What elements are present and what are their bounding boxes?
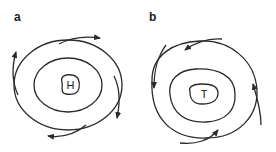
wind-arrow-bottom	[48, 125, 86, 137]
wind-arrow-bottom	[180, 130, 218, 143]
wind-arrow-right	[114, 76, 119, 118]
center-label-T: T	[201, 88, 208, 100]
wind-arrow-top	[185, 39, 222, 50]
wind-arrow-left	[154, 45, 166, 88]
pressure-systems-diagram: H T	[0, 0, 276, 152]
center-label-H: H	[67, 79, 75, 91]
